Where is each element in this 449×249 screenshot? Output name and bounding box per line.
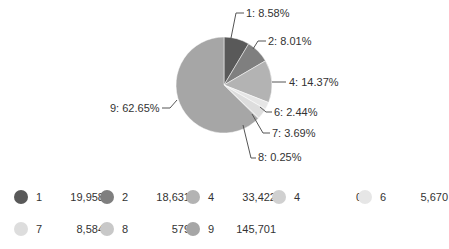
legend-name: 7 [36,223,42,235]
legend-value: 0 [312,191,362,203]
legend-item-4b[interactable]: 4 0 [272,189,286,205]
legend-item-4[interactable]: 4 33,422 [186,189,200,205]
legend-name: 4 [208,191,214,203]
legend-swatch [100,190,114,204]
legend-item-1[interactable]: 1 19,958 [14,189,28,205]
legend-name: 4 [294,191,300,203]
legend-swatch [100,222,114,236]
legend-name: 6 [380,191,386,203]
legend-name: 2 [122,191,128,203]
legend-swatch [272,190,286,204]
legend-swatch [14,222,28,236]
legend-value: 8,584 [54,223,104,235]
legend-value: 579 [140,223,190,235]
legend-name: 8 [122,223,128,235]
legend-value: 18,631 [140,191,190,203]
legend-value: 145,701 [226,223,276,235]
legend-item-8[interactable]: 8 579 [100,221,114,237]
legend-name: 1 [36,191,42,203]
legend-name: 9 [208,223,214,235]
legend-value: 5,670 [398,191,448,203]
legend-swatch [358,190,372,204]
legend-swatch [186,222,200,236]
legend-item-9[interactable]: 9 145,701 [186,221,200,237]
legend-item-2[interactable]: 2 18,631 [100,189,114,205]
legend-value: 19,958 [54,191,104,203]
legend-value: 33,422 [226,191,276,203]
legend-swatch [14,190,28,204]
legend-item-6[interactable]: 6 5,670 [358,189,372,205]
legend: 1 19,958 2 18,631 4 33,422 4 0 6 5,670 7… [0,0,449,249]
legend-item-7[interactable]: 7 8,584 [14,221,28,237]
legend-swatch [186,190,200,204]
